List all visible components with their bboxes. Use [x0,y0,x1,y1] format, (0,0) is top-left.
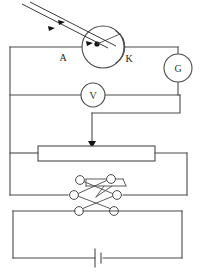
switch-terminal-mid-left[interactable] [70,191,79,200]
switch-terminal-top-left[interactable] [76,176,85,185]
rheostat-body [38,146,155,161]
photoelectric-circuit-diagram: A K G V [0,0,202,276]
light-ray-lower [30,2,116,46]
switch-terminal-mid-right[interactable] [113,191,122,200]
switch-handle-right-edge [123,179,126,186]
light-arrow-2-icon [48,26,55,31]
switch-terminal-bottom-left[interactable] [75,207,84,216]
light-ray-upper [22,4,108,48]
battery [95,249,101,267]
galvanometer-label: G [174,63,181,74]
phototube-loop-wires [10,47,178,195]
cathode-label: K [125,53,133,64]
voltmeter-label: V [89,90,97,101]
galvanometer: G [164,54,192,82]
switch-terminal-top-right[interactable] [107,175,116,184]
battery-loop-wires [13,211,182,258]
voltmeter: V [81,83,105,107]
anode-label: A [59,52,67,63]
reversing-switch[interactable] [70,175,126,216]
circuit-schematic-canvas: A K G V [0,0,202,276]
